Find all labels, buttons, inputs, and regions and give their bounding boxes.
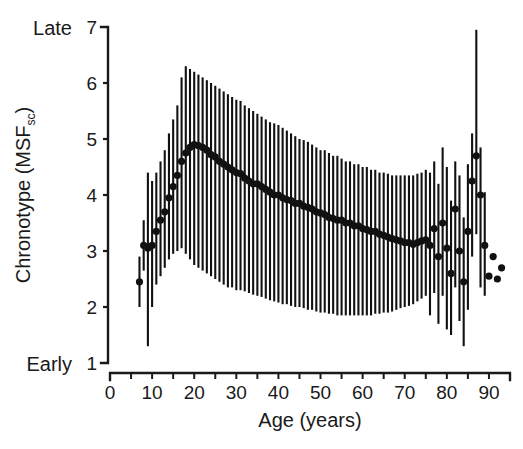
y-axis-tick-label: 4	[86, 185, 97, 206]
data-point	[149, 242, 156, 249]
data-point	[452, 205, 459, 212]
data-point	[485, 273, 492, 280]
x-axis-tick-label: 60	[352, 382, 373, 403]
x-axis-tick-label: 10	[142, 382, 163, 403]
y-axis-tick-label: 1	[86, 353, 97, 374]
chronotype-age-figure: 1234567LateEarlyChronotype (MSFsc)010203…	[0, 0, 523, 449]
x-axis-tick-label: 50	[310, 382, 331, 403]
x-axis-tick-label: 70	[394, 382, 415, 403]
x-axis-tick-label: 40	[268, 382, 289, 403]
y-axis-late-label: Late	[33, 17, 72, 39]
data-point	[136, 278, 143, 285]
data-point	[435, 253, 442, 260]
data-point	[473, 152, 480, 159]
data-series-group	[136, 30, 505, 346]
data-point	[460, 278, 467, 285]
chart-canvas: 1234567LateEarlyChronotype (MSFsc)010203…	[0, 0, 523, 449]
data-point	[439, 219, 446, 226]
data-point	[456, 247, 463, 254]
data-point	[426, 242, 433, 249]
data-point	[443, 245, 450, 252]
data-point	[490, 253, 497, 260]
x-axis-tick-label: 20	[184, 382, 205, 403]
data-point	[469, 177, 476, 184]
x-axis-tick-label: 80	[436, 382, 457, 403]
data-point	[170, 183, 177, 190]
data-point	[178, 158, 185, 165]
data-point	[157, 217, 164, 224]
data-point	[447, 270, 454, 277]
y-axis-tick-label: 7	[86, 17, 97, 38]
x-axis-tick-label: 0	[105, 382, 116, 403]
data-point	[431, 225, 438, 232]
data-point	[481, 242, 488, 249]
data-point	[174, 172, 181, 179]
data-point	[498, 264, 505, 271]
y-axis-tick-label: 3	[86, 241, 97, 262]
x-axis-title: Age (years)	[258, 409, 361, 431]
data-point	[464, 228, 471, 235]
y-axis-tick-label: 5	[86, 129, 97, 150]
y-axis-tick-label: 2	[86, 297, 97, 318]
data-point	[161, 208, 168, 215]
y-axis-tick-label: 6	[86, 73, 97, 94]
y-axis-title-group: Chronotype (MSFsc)	[12, 107, 38, 284]
data-point	[477, 191, 484, 198]
data-point	[153, 228, 160, 235]
data-point	[165, 194, 172, 201]
data-point	[494, 275, 501, 282]
x-axis-tick-label: 30	[226, 382, 247, 403]
x-axis-tick-label: 90	[478, 382, 499, 403]
y-axis-title: Chronotype (MSFsc)	[12, 107, 38, 284]
y-axis-early-label: Early	[26, 353, 72, 375]
x-axis-line	[110, 373, 510, 380]
